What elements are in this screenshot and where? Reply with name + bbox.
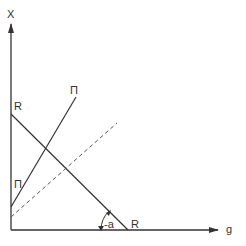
x-axis-label: g xyxy=(226,223,232,235)
pi-line xyxy=(11,97,76,207)
angle-label: -a xyxy=(104,218,115,230)
pi-line-label-left: Π xyxy=(14,178,22,190)
r-line-label-start: R xyxy=(14,100,22,112)
y-axis-label: X xyxy=(7,8,15,20)
diagram-canvas: X g R R Π Π -a xyxy=(0,0,246,246)
r-line-label-end: R xyxy=(131,218,139,230)
r-line xyxy=(11,114,128,230)
pi-line-label-top: Π xyxy=(70,84,78,96)
